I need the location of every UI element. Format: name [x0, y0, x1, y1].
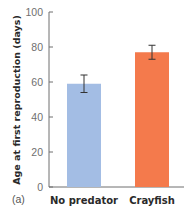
bars [67, 45, 169, 187]
x-axis-labels: No predatorCrayfish [50, 195, 175, 206]
y-tick-label: 40 [31, 111, 43, 123]
bar-no-predator [67, 84, 101, 187]
panel-label: (a) [12, 193, 25, 205]
bar-crayfish [135, 52, 169, 187]
y-tick-label: 20 [31, 146, 43, 158]
x-category-label: No predator [50, 195, 118, 206]
y-tick-label: 0 [37, 181, 43, 193]
x-category-label: Crayfish [129, 195, 175, 206]
y-tick-label: 60 [31, 76, 43, 88]
y-tick-label: 80 [31, 41, 43, 53]
y-axis-label: Age at first reproduction (days) [11, 15, 22, 185]
bar-chart: Age at first reproduction (days) 0204060… [0, 0, 196, 217]
y-tick-label: 100 [25, 6, 43, 18]
